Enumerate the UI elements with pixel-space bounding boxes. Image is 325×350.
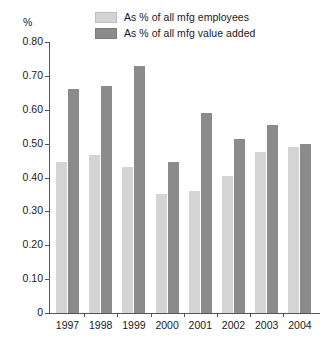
y-tick-label: 0 [37,307,43,318]
y-tick-label: 0.40 [23,172,43,183]
bar [222,176,233,313]
chart-legend: As % of all mfg employees As % of all mf… [95,10,320,42]
bar [189,191,200,313]
y-tick-label: 0.30 [23,205,43,216]
bar [255,152,266,313]
bar [101,86,112,313]
bar [267,125,278,313]
y-tick-label: 0.70 [23,70,43,81]
x-tick-mark [84,313,85,317]
y-tick-label: 0.50 [23,138,43,149]
legend-item-value-added: As % of all mfg value added [95,26,320,40]
x-tick-mark [151,313,152,317]
bar-group [189,42,212,313]
bar-group [255,42,278,313]
bar-group [56,42,79,313]
y-tick-mark [45,76,49,77]
legend-label-employees: As % of all mfg employees [124,11,249,23]
y-tick-label: 0.80 [23,36,43,47]
x-tick-mark [283,313,284,317]
bar-group [156,42,179,313]
bar [156,194,167,313]
x-tick-mark [117,313,118,317]
bar-chart-figure: As % of all mfg employees As % of all mf… [0,0,325,350]
bar [68,89,79,313]
legend-swatch-value-added [95,28,117,39]
bar-group [122,42,145,313]
legend-item-employees: As % of all mfg employees [95,10,320,24]
x-tick-label: 1998 [83,319,118,331]
x-tick-label: 1997 [50,319,85,331]
bar [89,155,100,313]
bar [234,139,245,313]
bar [168,162,179,313]
x-tick-label: 2001 [183,319,218,331]
y-tick-label: 0.10 [23,273,43,284]
x-tick-mark [250,313,251,317]
bar-group [222,42,245,313]
y-tick-mark [45,178,49,179]
x-tick-label: 2003 [249,319,284,331]
y-tick-mark [45,279,49,280]
bar-group [89,42,112,313]
x-tick-label: 2004 [282,319,317,331]
bar [56,162,67,313]
y-tick-label: 0.20 [23,239,43,250]
y-tick-mark [45,110,49,111]
y-tick-mark [45,245,49,246]
x-tick-label: 1999 [116,319,151,331]
x-tick-label: 2002 [216,319,251,331]
x-tick-mark [184,313,185,317]
y-tick-mark [45,313,49,314]
bar [122,167,133,313]
y-tick-mark [45,144,49,145]
x-tick-label: 2000 [150,319,185,331]
y-axis-line [49,42,50,313]
x-tick-mark [217,313,218,317]
y-tick-label: 0.60 [23,104,43,115]
plot-area: 0.800.700.600.500.400.300.200.100 199719… [49,42,320,313]
bar [300,144,311,313]
y-axis-unit-label: % [23,17,32,28]
legend-swatch-employees [95,12,117,23]
legend-label-value-added: As % of all mfg value added [124,27,256,39]
bar [288,147,299,313]
y-tick-mark [45,211,49,212]
bar [134,66,145,313]
y-tick-mark [45,42,49,43]
bar-group [288,42,311,313]
bar [201,113,212,313]
